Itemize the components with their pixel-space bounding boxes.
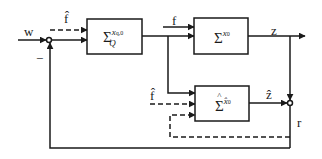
plant-sigma: Σ [214, 30, 223, 46]
label-fhat-top: f̂ [64, 12, 68, 25]
label-w: w [24, 25, 33, 38]
plant-super-sub: 0 [227, 31, 230, 37]
label-zhat: ẑ [266, 88, 272, 101]
label-r: r [297, 116, 301, 129]
controller-sub: Q [109, 38, 116, 48]
controller-super-sub: q,0 [116, 30, 124, 36]
observer-sigma: Σ [215, 99, 224, 114]
plant-label: Σx0 [214, 29, 230, 46]
label-z: z [271, 24, 277, 37]
residual-junction [288, 101, 293, 106]
label-minus: − [36, 52, 43, 65]
observer-super-sub: 0 [228, 99, 231, 105]
label-f: f [172, 14, 176, 27]
observer-label: Σx̂0 [215, 97, 231, 114]
label-fhat-bottom: f̂ [150, 89, 154, 102]
summing-junction [47, 38, 52, 43]
controller-label: Σxq,0Q [103, 28, 116, 48]
control-to-observer-line [168, 36, 195, 93]
